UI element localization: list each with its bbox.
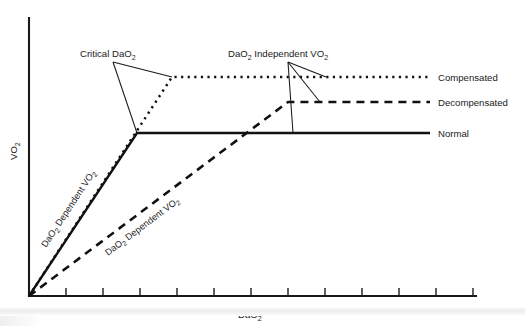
annotation-dependent-vo2-decompensated: DaO2 Dependent VO2 (103, 195, 183, 259)
leader-line-critical-to-compensated (113, 62, 172, 77)
page-edge-shadow (0, 307, 525, 316)
series-group (29, 77, 430, 296)
legend-label-decompensated: Decompensated (438, 97, 508, 108)
annotation-dependent-vo2-normal: DaO2 Dependent VO2 (39, 168, 99, 250)
y-axis-label-sub: 2 (14, 142, 22, 146)
chart-canvas: Critical DaO2 DaO2 Independent VO2 DaO2 … (0, 0, 525, 326)
legend-group: Compensated Decompensated Normal (438, 72, 508, 139)
oxygen-delivery-consumption-figure: Critical DaO2 DaO2 Independent VO2 DaO2 … (0, 0, 525, 326)
leader-line-independent-to-normal (288, 62, 293, 133)
page-corner-artifact (0, 316, 42, 326)
annotation-independent-vo2-main-b: Independent VO (252, 48, 325, 59)
annotation-critical-dao2-sub: 2 (132, 54, 136, 62)
y-axis-label-main: VO (8, 146, 19, 160)
axes-group (29, 18, 476, 296)
x-axis-ticks (66, 288, 473, 296)
independent-vo2-leader-lines (288, 62, 326, 133)
critical-dao2-leader-lines (113, 62, 172, 133)
legend-label-normal: Normal (438, 128, 469, 139)
annotation-critical-dao2-main: Critical DaO (80, 48, 132, 59)
leader-line-critical-to-normal (113, 62, 137, 133)
annotation-dependent-decomp-main-b: Dependent VO (121, 198, 178, 244)
annotation-independent-vo2: DaO2 Independent VO2 (228, 48, 328, 62)
annotation-dependent-normal-main-b: Dependent VO (52, 172, 95, 230)
series-normal-line (29, 133, 430, 296)
annotation-independent-vo2-main-a: DaO (228, 48, 248, 59)
y-axis-label: VO2 (8, 142, 22, 160)
annotation-independent-vo2-sub-b: 2 (324, 54, 328, 62)
legend-label-compensated: Compensated (438, 72, 498, 83)
series-decompensated-line (29, 102, 430, 296)
series-compensated-line (29, 77, 430, 296)
annotation-critical-dao2: Critical DaO2 (80, 48, 136, 62)
